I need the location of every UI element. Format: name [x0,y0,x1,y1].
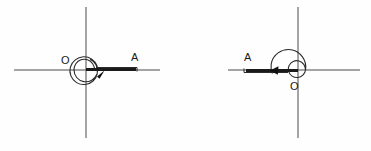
figure-root: O A O A [0,0,371,151]
right-panel: O A [228,7,360,138]
left-vertex-label: O [61,54,70,66]
right-vertex-label: O [290,80,299,92]
right-terminal-point-label: A [244,51,252,63]
left-panel: O A [14,7,160,138]
left-terminal-point-label: A [131,51,139,63]
left-rotation-arrowhead [97,71,105,79]
angle-diagram-svg: O A O A [0,0,371,151]
